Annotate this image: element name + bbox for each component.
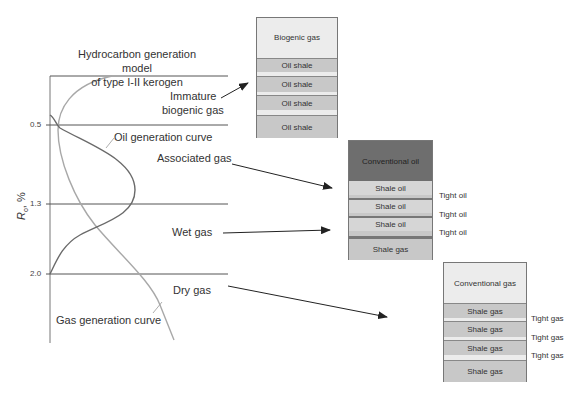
zone-immature-1: Immature <box>170 90 216 102</box>
layer-biogenic-gas: Biogenic gas <box>257 18 337 57</box>
layer-shale-oil: Shale oil <box>349 181 432 195</box>
title-line-1: Hydrocarbon generation model <box>62 47 212 75</box>
tight-gas-label: Tight gas <box>531 351 564 360</box>
zone-wet-gas: Wet gas <box>172 226 212 238</box>
zone-immature-2: biogenic gas <box>162 104 224 116</box>
layer-conventional-oil: Conventional oil <box>349 141 432 181</box>
layer-shale-gas: Shale gas <box>444 321 526 337</box>
layer-shale-gas: Shale gas <box>444 340 526 355</box>
gas-generation-curve <box>58 76 174 340</box>
tight-gas-label: Tight gas <box>531 333 564 342</box>
axis-label-ro: Ro, % <box>15 192 29 220</box>
layer-shale-oil: Shale oil <box>349 216 432 231</box>
column-biogenic: Biogenic gas Oil shale Oil shale Oil sha… <box>256 17 338 138</box>
layer-shale-oil: Shale oil <box>349 198 432 213</box>
tick-0.5: 0.5 <box>30 120 41 129</box>
arrow-dry <box>228 286 387 317</box>
tick-1.3: 1.3 <box>30 199 41 208</box>
layer-oil-shale: Oil shale <box>257 115 337 138</box>
tight-gas-label: Tight gas <box>531 314 564 323</box>
arrow-wet <box>223 230 330 233</box>
tick-2.0: 2.0 <box>30 269 41 278</box>
gas-curve-label: Gas generation curve <box>56 314 161 326</box>
zone-associated-gas: Associated gas <box>157 152 232 164</box>
tight-oil-label: Tight oil <box>439 191 467 200</box>
arrow-immature <box>221 83 248 98</box>
tight-oil-label: Tight oil <box>439 210 467 219</box>
layer-oil-shale: Oil shale <box>257 76 337 92</box>
layer-shale-gas: Shale gas <box>444 360 526 382</box>
layer-oil-shale: Oil shale <box>257 58 337 72</box>
layer-shale-gas: Shale gas <box>444 303 526 318</box>
layer-oil-shale: Oil shale <box>257 95 337 110</box>
layer-conventional-gas: Conventional gas <box>444 263 526 303</box>
tight-oil-label: Tight oil <box>439 228 467 237</box>
diagram-title: Hydrocarbon generation model of type I-I… <box>62 47 212 89</box>
column-gas: Conventional gas Shale gas Shale gas Sha… <box>443 262 527 382</box>
layer-shale-gas: Shale gas <box>349 236 432 260</box>
arrow-associated <box>232 164 332 188</box>
title-line-2: of type I-II kerogen <box>62 75 212 89</box>
column-oil: Conventional oil Shale oil Shale oil Sha… <box>348 140 433 260</box>
oil-curve-label: Oil generation curve <box>114 131 212 143</box>
zone-dry-gas: Dry gas <box>173 284 211 296</box>
